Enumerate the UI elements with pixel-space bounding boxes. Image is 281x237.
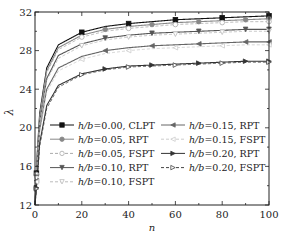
- legend-item: h/b=0.15, RPT: [161, 120, 260, 131]
- circle-marker: [173, 22, 178, 27]
- triangle-marker: [197, 61, 202, 66]
- tick-labels: 020406080100121620242832: [19, 7, 278, 221]
- triangle-marker: [60, 180, 64, 184]
- triangle-marker: [103, 48, 108, 53]
- legend-item: h/b=0.10, RPT: [50, 162, 149, 173]
- legend-item: h/b=0.20, FSPT: [161, 162, 266, 173]
- triangle-marker: [171, 151, 175, 155]
- y-tick-label: 28: [19, 45, 32, 56]
- triangle-marker: [220, 43, 225, 48]
- circle-marker: [80, 35, 85, 40]
- y-tick-label: 12: [19, 200, 32, 211]
- triangle-marker: [126, 48, 131, 53]
- legend-label: h/b=0.10, FSPT: [78, 176, 155, 187]
- legend-label: h/b=0.05, FSPT: [78, 148, 155, 159]
- circle-marker: [150, 22, 155, 27]
- legend-item: h/b=0.10, FSPT: [50, 176, 155, 187]
- x-tick-label: 0: [32, 209, 38, 220]
- legend-label: h/b=0.10, RPT: [78, 162, 149, 173]
- legend-label: h/b=0.20, FSPT: [189, 162, 266, 173]
- triangle-marker: [150, 43, 155, 48]
- circle-marker: [220, 20, 225, 25]
- triangle-marker: [150, 63, 155, 68]
- square-marker: [80, 30, 85, 35]
- plot-svg: 020406080100121620242832 n λ h/b=0.00, C…: [0, 0, 281, 237]
- legend: h/b=0.00, CLPTh/b=0.05, RPTh/b=0.05, FSP…: [50, 120, 266, 188]
- legend-label: h/b=0.15, FSPT: [189, 134, 266, 145]
- legend-label: h/b=0.05, RPT: [78, 134, 149, 145]
- circle-marker: [243, 17, 248, 22]
- chart: 020406080100121620242832 n λ h/b=0.00, C…: [0, 0, 281, 237]
- triangle-marker: [171, 165, 175, 169]
- circle-marker: [60, 137, 64, 141]
- triangle-marker: [197, 42, 202, 47]
- triangle-marker: [173, 32, 178, 37]
- legend-item: h/b=0.20, RPT: [161, 148, 260, 159]
- legend-label: h/b=0.20, RPT: [189, 148, 260, 159]
- y-tick-label: 20: [19, 122, 32, 133]
- legend-item: h/b=0.00, CLPT: [50, 120, 156, 131]
- triangle-marker: [243, 40, 248, 45]
- y-tick-label: 32: [19, 7, 32, 18]
- y-tick-label: 24: [19, 84, 32, 95]
- x-tick-label: 20: [75, 209, 88, 220]
- x-tick-label: 40: [122, 209, 135, 220]
- legend-item: h/b=0.05, RPT: [50, 134, 149, 145]
- triangle-marker: [173, 45, 178, 50]
- legend-label: h/b=0.00, CLPT: [78, 120, 156, 131]
- legend-label: h/b=0.15, RPT: [189, 120, 260, 131]
- y-axis-label: λ: [3, 109, 16, 117]
- circle-marker: [126, 26, 131, 31]
- circle-marker: [60, 151, 64, 155]
- triangle-marker: [243, 59, 248, 64]
- x-tick-label: 80: [216, 209, 229, 220]
- triangle-marker: [171, 123, 175, 127]
- triangle-marker: [173, 63, 178, 68]
- triangle-marker: [103, 67, 108, 72]
- triangle-marker: [126, 65, 131, 70]
- triangle-marker: [171, 137, 175, 141]
- triangle-marker: [220, 61, 225, 66]
- triangle-marker: [60, 165, 64, 169]
- triangle-marker: [80, 43, 85, 48]
- square-marker: [173, 17, 178, 22]
- y-tick-label: 16: [19, 161, 32, 172]
- x-tick-label: 60: [169, 209, 182, 220]
- x-axis-label: n: [149, 222, 155, 233]
- circle-marker: [197, 19, 202, 24]
- square-marker: [126, 21, 131, 26]
- square-marker: [220, 15, 225, 20]
- circle-marker: [103, 27, 108, 32]
- square-marker: [60, 123, 64, 127]
- x-tick-label: 100: [259, 209, 278, 220]
- legend-item: h/b=0.15, FSPT: [161, 134, 266, 145]
- legend-item: h/b=0.05, FSPT: [50, 148, 155, 159]
